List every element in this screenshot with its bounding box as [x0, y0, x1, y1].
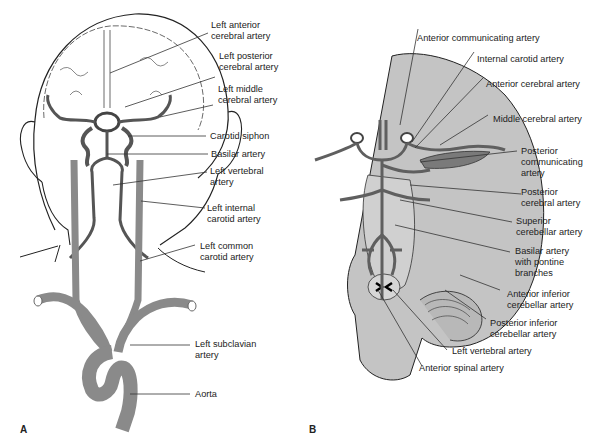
label-middle-cerebral-artery: Middle cerebral artery [493, 114, 582, 125]
label-superior-cerebellar-artery: Superior cerebellar artery [516, 216, 582, 238]
cerebral-arteries-figure: Left anterior cerebral artery Left poste… [0, 0, 599, 447]
label-left-vertebral-artery: Left vertebral artery [210, 166, 264, 188]
label-posterior-inferior-cerebellar-artery: Posterior inferior cerebellar artery [490, 318, 557, 340]
label-left-common-carotid-artery: Left common carotid artery [200, 241, 254, 263]
label-anterior-spinal-artery: Anterior spinal artery [419, 363, 504, 374]
label-left-subclavian-artery: Left subclavian artery [195, 339, 256, 361]
label-left-anterior-cerebral-artery: Left anterior cerebral artery [211, 20, 270, 42]
label-left-posterior-cerebral-artery: Left posterior cerebral artery [219, 51, 278, 73]
label-anterior-communicating-artery: Anterior communicating artery [417, 33, 540, 44]
label-basilar-artery-pontine-branches: Basilar artery with pontine branches [515, 246, 569, 279]
label-internal-carotid-artery: Internal carotid artery [477, 54, 564, 65]
label-left-vertebral-artery-b: Left vertebral artery [452, 346, 532, 357]
label-left-middle-cerebral-artery: Left middle cerebral artery [218, 84, 277, 106]
label-left-internal-carotid-artery: Left internal carotid artery [207, 203, 261, 225]
label-posterior-cerebral-artery: Posterior cerebral artery [521, 187, 580, 209]
label-anterior-inferior-cerebellar-artery: Anterior inferior cerebellar artery [507, 289, 573, 311]
leader-lines [0, 0, 599, 447]
label-anterior-cerebral-artery: Anterior cerebral artery [486, 79, 580, 90]
panel-letter-a: A [20, 424, 27, 435]
label-carotid-siphon: Carotid siphon [210, 131, 269, 142]
panel-letter-b: B [309, 424, 316, 435]
label-aorta: Aorta [195, 389, 217, 400]
label-posterior-communicating-artery: Posterior communicating artery [521, 146, 583, 179]
label-basilar-artery: Basilar artery [211, 149, 265, 160]
